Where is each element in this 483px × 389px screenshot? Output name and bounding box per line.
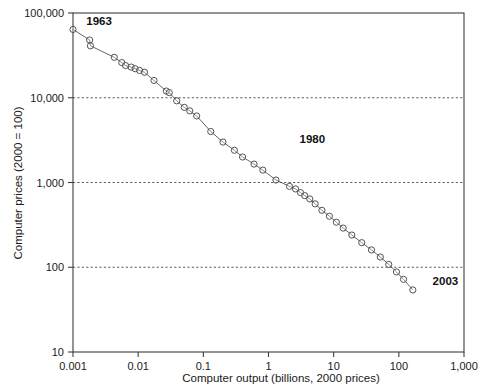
data-point-22 bbox=[260, 167, 266, 173]
data-point-23 bbox=[273, 177, 279, 183]
data-point-32 bbox=[333, 219, 339, 225]
data-point-17 bbox=[208, 128, 214, 134]
y-axis-tick-labels: 101001,00010,000100,000 bbox=[24, 7, 64, 358]
annotation-1980: 1980 bbox=[300, 133, 326, 145]
y-tick-label-100: 100 bbox=[46, 261, 64, 273]
data-point-14 bbox=[181, 104, 187, 110]
data-point-36 bbox=[368, 247, 374, 253]
data-point-19 bbox=[231, 147, 237, 153]
data-point-31 bbox=[326, 213, 332, 219]
data-point-28 bbox=[307, 196, 313, 202]
data-point-13 bbox=[174, 98, 180, 104]
x-tick-label-10: 10 bbox=[328, 360, 340, 372]
chart-canvas: 101001,00010,000100,000 0.0010.010.11101… bbox=[0, 0, 483, 389]
data-point-18 bbox=[220, 139, 226, 145]
data-point-29 bbox=[312, 201, 318, 207]
x-tick-label-0.01: 0.01 bbox=[127, 360, 148, 372]
data-point-20 bbox=[239, 154, 245, 160]
annotation-2003: 2003 bbox=[433, 275, 459, 287]
y-axis-ticks bbox=[68, 13, 73, 352]
data-point-40 bbox=[400, 276, 406, 282]
y-tick-label-100000: 100,000 bbox=[24, 7, 64, 19]
data-point-33 bbox=[340, 225, 346, 231]
x-tick-label-1000: 1,000 bbox=[450, 360, 478, 372]
data-point-38 bbox=[386, 261, 392, 267]
data-point-markers bbox=[70, 26, 416, 293]
x-tick-label-0.001: 0.001 bbox=[59, 360, 87, 372]
data-point-41 bbox=[410, 287, 416, 293]
x-axis-ticks bbox=[73, 352, 464, 357]
x-axis-title: Computer output (billions, 2000 prices) bbox=[182, 372, 380, 384]
data-point-15 bbox=[187, 108, 193, 114]
data-point-9 bbox=[141, 69, 147, 75]
chart-figure: 101001,00010,000100,000 0.0010.010.11101… bbox=[0, 0, 483, 389]
data-point-16 bbox=[194, 113, 200, 119]
x-tick-label-1: 1 bbox=[265, 360, 271, 372]
data-point-0 bbox=[70, 26, 76, 32]
data-point-3 bbox=[111, 54, 117, 60]
data-point-2 bbox=[87, 43, 93, 49]
gridlines bbox=[73, 98, 464, 268]
data-point-10 bbox=[151, 77, 157, 83]
x-axis-tick-labels: 0.0010.010.11101001,000 bbox=[59, 360, 478, 372]
y-axis-title: Computer prices (2000 = 100) bbox=[12, 106, 24, 259]
data-point-12 bbox=[166, 90, 172, 96]
annotation-1963: 1963 bbox=[86, 15, 112, 27]
data-point-35 bbox=[359, 240, 365, 246]
data-point-34 bbox=[349, 232, 355, 238]
data-point-21 bbox=[251, 161, 257, 167]
data-point-39 bbox=[393, 269, 399, 275]
data-series bbox=[70, 26, 416, 293]
y-tick-label-1000: 1,000 bbox=[36, 177, 64, 189]
point-annotations: 196319802003 bbox=[86, 15, 458, 287]
y-tick-label-10: 10 bbox=[52, 346, 64, 358]
data-point-30 bbox=[319, 207, 325, 213]
data-point-1 bbox=[87, 37, 93, 43]
data-point-24 bbox=[286, 183, 292, 189]
y-tick-label-10000: 10,000 bbox=[30, 92, 64, 104]
data-point-37 bbox=[377, 254, 383, 260]
x-tick-label-100: 100 bbox=[390, 360, 408, 372]
x-tick-label-0.1: 0.1 bbox=[196, 360, 211, 372]
